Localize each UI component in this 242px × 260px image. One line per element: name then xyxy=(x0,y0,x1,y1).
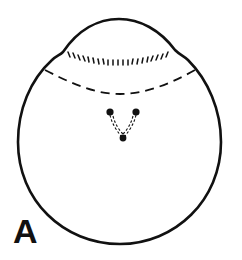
dot-bottom xyxy=(120,135,127,142)
dot-left xyxy=(106,108,113,115)
dots xyxy=(106,108,139,141)
panel-label: A xyxy=(13,214,38,248)
dashed-v-connectors xyxy=(110,115,136,136)
dot-right xyxy=(132,108,139,115)
cell-outline xyxy=(18,19,221,244)
apical-dome-striations xyxy=(68,52,168,65)
dashed-boundary-line xyxy=(45,70,195,94)
